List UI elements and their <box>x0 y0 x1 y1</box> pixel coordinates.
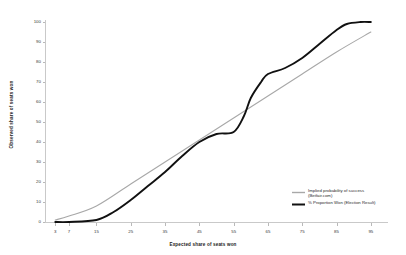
legend-swatch-black <box>292 203 305 206</box>
plot-area <box>0 0 406 255</box>
legend-swatch-gray <box>292 191 305 194</box>
chart-container: Observed share of seats won Expected sha… <box>0 0 406 255</box>
chart-legend: Implied probability of success (Betfair.… <box>292 188 404 208</box>
legend-sublabel-betfair: (Betfair.com) <box>308 193 332 199</box>
legend-item-implied-probability: Implied probability of success (Betfair.… <box>292 188 404 195</box>
legend-item-proportion-won: % Proportion Won (Election Result) <box>292 200 404 207</box>
legend-label-proportion-won: % Proportion Won (Election Result) <box>308 200 376 206</box>
